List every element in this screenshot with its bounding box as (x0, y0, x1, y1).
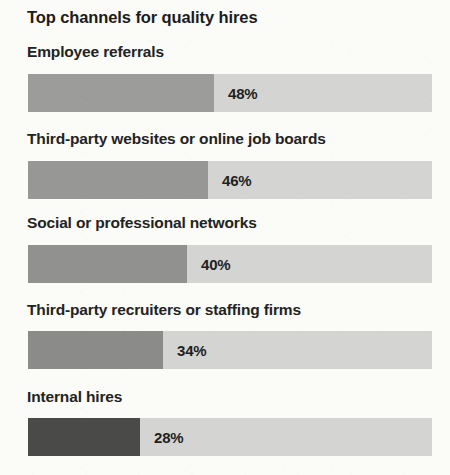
bar-fill (28, 331, 163, 369)
bar-fill (28, 418, 140, 456)
bar-value-label: 46% (222, 172, 251, 189)
bar-track: 46% (28, 161, 432, 199)
bar-track: 34% (28, 331, 432, 369)
bar-fill (28, 245, 187, 283)
bar-category-label: Third-party recruiters or staffing firms (27, 301, 301, 319)
bar-value-label: 40% (201, 256, 230, 273)
bar-category-label: Internal hires (27, 388, 122, 406)
chart-title: Top channels for quality hires (27, 8, 257, 27)
bar-category-label: Third-party websites or online job board… (27, 130, 326, 148)
bar-track: 40% (28, 245, 432, 283)
bar-fill (28, 161, 208, 199)
bar-value-label: 48% (228, 85, 257, 102)
bar-chart: Top channels for quality hires Employee … (0, 0, 450, 475)
bar-track: 28% (28, 418, 432, 456)
bar-category-label: Social or professional networks (27, 214, 257, 232)
bar-track: 48% (28, 74, 432, 112)
bar-fill (28, 74, 214, 112)
bar-value-label: 28% (154, 429, 183, 446)
bar-category-label: Employee referrals (27, 43, 164, 61)
bar-value-label: 34% (177, 342, 206, 359)
